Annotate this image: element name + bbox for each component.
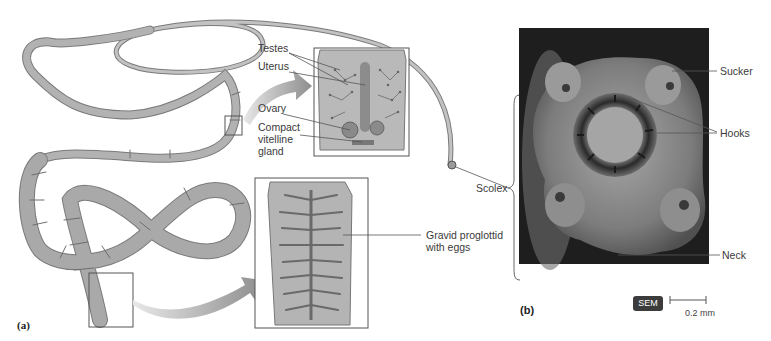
label-sucker: Sucker (720, 65, 753, 77)
arrow-to-mature-proglottid (243, 70, 312, 125)
scale-bar-label: 0.2 mm (685, 308, 715, 318)
scolex-brace (508, 95, 520, 280)
label-scolex: Scolex (476, 182, 508, 194)
label-compact-vitelline-gland: Compact vitelline gland (258, 121, 300, 157)
gravid-proglottid-enlargement (255, 178, 368, 328)
sem-badge: SEM (633, 296, 663, 311)
label-uterus: Uterus (258, 60, 289, 72)
scolex-marker (448, 161, 456, 169)
label-testes: Testes (258, 42, 288, 54)
scale-bar (670, 296, 706, 304)
panel-label-b: (b) (520, 304, 534, 316)
sem-photo (519, 28, 709, 270)
label-ovary: Ovary (258, 102, 286, 114)
label-gravid-proglottid: Gravid proglottid with eggs (426, 229, 503, 253)
panel-label-a: (a) (17, 319, 30, 331)
mature-proglottid-enlargement (314, 48, 409, 156)
label-hooks: Hooks (720, 127, 750, 139)
label-neck: Neck (722, 249, 746, 261)
arrow-to-gravid-proglottid (133, 277, 262, 319)
tapeworm-diagram (0, 0, 771, 341)
